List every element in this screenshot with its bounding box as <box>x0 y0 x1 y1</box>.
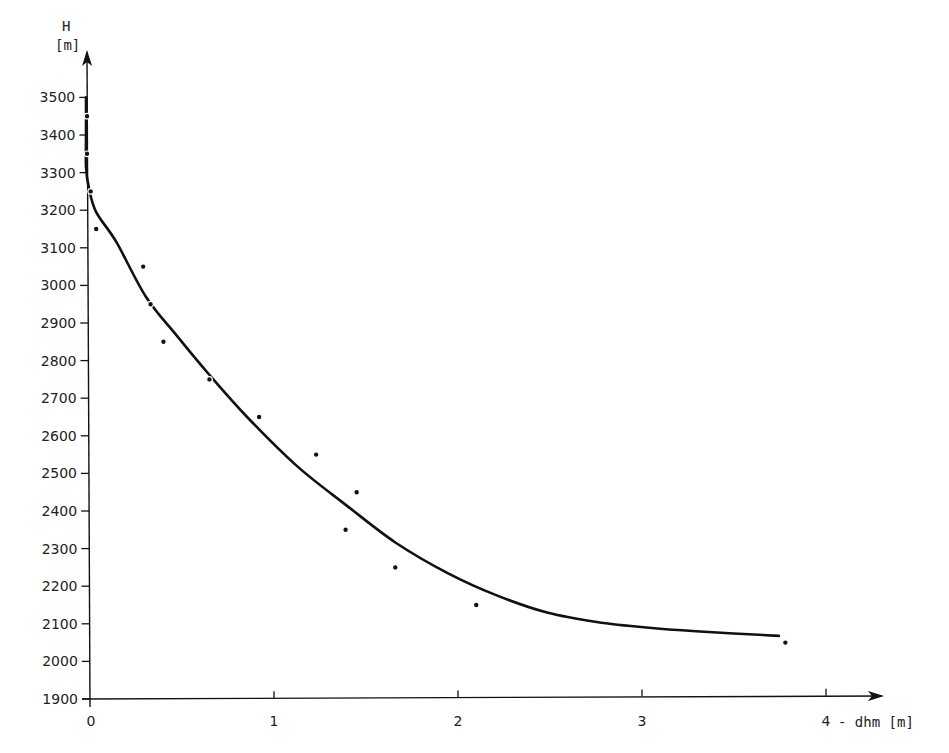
x-axis <box>82 696 882 699</box>
y-tick-label: 2200 <box>42 578 78 594</box>
y-tick-label: 2400 <box>41 503 77 519</box>
y-axis-unit: [m] <box>55 37 80 53</box>
y-tick-label: 2600 <box>41 428 77 444</box>
data-point <box>313 452 319 458</box>
data-point <box>256 414 262 420</box>
y-tick-label: 3200 <box>40 202 76 218</box>
x-axis-ticks: 01234 <box>87 689 831 729</box>
data-point <box>392 565 398 571</box>
x-axis-label: - dhm [m] <box>838 714 914 730</box>
y-tick-label: 3500 <box>40 89 76 105</box>
data-point <box>207 377 213 383</box>
data-point <box>84 151 90 157</box>
y-tick-label: 3100 <box>40 240 76 256</box>
data-point <box>88 189 94 195</box>
y-axis <box>87 52 90 707</box>
y-tick-label: 2900 <box>41 315 77 331</box>
x-tick-label: 3 <box>638 713 647 729</box>
data-point <box>473 602 479 608</box>
y-tick-label: 2700 <box>41 390 77 406</box>
data-point <box>161 339 167 345</box>
data-point <box>93 226 99 232</box>
data-point <box>343 527 349 533</box>
data-point <box>783 640 789 646</box>
y-tick-label: 2800 <box>41 353 77 369</box>
y-tick-label: 3000 <box>40 277 76 293</box>
y-axis-ticks: 1900200021002200230024002500260027002800… <box>40 89 90 707</box>
x-tick-label: 2 <box>454 713 463 729</box>
x-tick-label: 1 <box>270 713 279 729</box>
data-point <box>84 113 90 119</box>
data-point <box>148 301 154 307</box>
x-tick-label: 0 <box>87 713 96 729</box>
chart-canvas: 1900200021002200230024002500260027002800… <box>0 0 949 753</box>
y-tick-label: 3400 <box>40 127 76 143</box>
y-tick-label: 2300 <box>42 541 78 557</box>
fitted-curve <box>86 97 779 635</box>
y-tick-label: 2500 <box>41 465 77 481</box>
y-tick-label: 2000 <box>42 653 78 669</box>
x-tick-label: 4 <box>822 713 831 729</box>
axes <box>82 52 882 707</box>
data-point <box>140 264 146 270</box>
data-point <box>354 489 360 495</box>
y-tick-label: 2100 <box>42 616 78 632</box>
y-tick-label: 3300 <box>40 165 76 181</box>
y-tick-label: 1900 <box>42 691 78 707</box>
y-axis-label: H <box>62 18 70 34</box>
